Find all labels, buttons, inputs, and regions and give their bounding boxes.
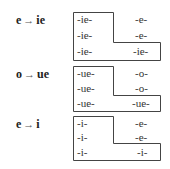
cell-right-3: -ue- xyxy=(132,97,150,109)
boot-box-e-ie: -ie- -ie- -ie- -e- -e- -ie- xyxy=(73,12,160,61)
rule-to: i xyxy=(36,117,39,131)
rule-label-e-ie: e→ie xyxy=(16,13,45,28)
cell-left-1: -ie- xyxy=(77,13,92,25)
arrow-icon: → xyxy=(23,118,34,130)
cell-left-1: -ue- xyxy=(77,67,95,79)
cell-right-1: -e- xyxy=(135,117,147,129)
cell-left-3: -ie- xyxy=(77,45,92,57)
cell-right-2: -e- xyxy=(135,29,147,41)
arrow-icon: → xyxy=(24,68,35,80)
cell-left-2: -i- xyxy=(77,131,87,143)
cell-right-2: -e- xyxy=(135,131,147,143)
rule-label-e-i: e→i xyxy=(16,117,40,132)
cell-left-3: -i- xyxy=(77,146,87,158)
boot-box-o-ue: -ue- -ue- -ue- -o- -o- -ue- xyxy=(73,66,160,112)
rule-to: ie xyxy=(36,13,45,27)
rule-label-o-ue: o→ue xyxy=(16,67,49,82)
boot-box-e-i: -i- -i- -i- -e- -e- -i- xyxy=(73,116,160,161)
cell-right-1: -o- xyxy=(135,67,148,79)
rule-from: e xyxy=(16,117,21,131)
arrow-icon: → xyxy=(23,14,34,26)
rule-from: o xyxy=(16,67,22,81)
cell-right-1: -e- xyxy=(135,13,147,25)
cell-right-2: -o- xyxy=(135,82,148,94)
cell-left-1: -i- xyxy=(77,117,87,129)
cell-left-3: -ue- xyxy=(77,97,95,109)
cell-right-3: -ie- xyxy=(133,45,148,57)
cell-left-2: -ie- xyxy=(77,29,92,41)
rule-to: ue xyxy=(37,67,49,81)
rule-from: e xyxy=(16,13,21,27)
cell-right-3: -i- xyxy=(137,146,147,158)
cell-left-2: -ue- xyxy=(77,82,95,94)
